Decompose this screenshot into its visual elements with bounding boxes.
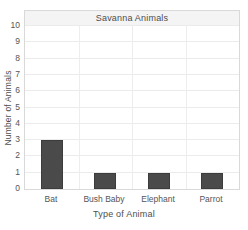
bar-chart: Number of Animals 012345678910 Savanna A…: [0, 0, 248, 230]
chart-title: Savanna Animals: [96, 13, 169, 23]
y-tick-label: 2: [0, 150, 20, 160]
y-tick-label: 1: [0, 167, 20, 177]
y-tick-label: 8: [0, 53, 20, 63]
plot-area: Savanna Animals: [24, 10, 240, 190]
bar-elephant: [148, 173, 170, 189]
x-tick-label: Bush Baby: [83, 194, 124, 204]
y-tick-label: 3: [0, 134, 20, 144]
y-tick-label: 6: [0, 85, 20, 95]
y-tick-label: 0: [0, 183, 20, 193]
v-gridline: [132, 26, 133, 189]
y-tick-label: 5: [0, 102, 20, 112]
v-gridline: [186, 26, 187, 189]
v-gridline: [79, 26, 80, 189]
x-tick-label: Elephant: [141, 194, 175, 204]
x-axis-title: Type of Animal: [0, 209, 248, 219]
x-tick-label: Bat: [45, 194, 58, 204]
y-tick-label: 4: [0, 118, 20, 128]
y-tick-label: 10: [0, 20, 20, 30]
chart-title-band: Savanna Animals: [25, 11, 239, 26]
plot-grid: [25, 26, 239, 189]
y-tick-label: 9: [0, 36, 20, 46]
x-axis-tick-labels: BatBush BabyElephantParrot: [24, 194, 240, 206]
y-axis-tick-labels: 012345678910: [0, 10, 20, 190]
y-tick-label: 7: [0, 69, 20, 79]
bar-bush-baby: [94, 173, 116, 189]
bar-parrot: [201, 173, 223, 189]
x-tick-label: Parrot: [199, 194, 222, 204]
bar-bat: [41, 140, 63, 189]
